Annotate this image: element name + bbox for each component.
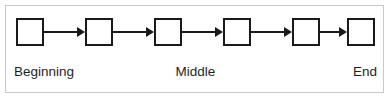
chain-node-4 [223, 18, 251, 46]
chain-node-3 [154, 18, 182, 46]
chain-row [0, 0, 391, 101]
arrow-head-icon [215, 27, 223, 37]
chain-arrow-3 [182, 30, 223, 34]
caption-end: End [353, 62, 377, 82]
arrow-head-icon [146, 27, 154, 37]
caption-middle: Middle [14, 62, 377, 82]
arrow-shaft [44, 31, 77, 33]
arrow-shaft [113, 31, 146, 33]
chain-node-1 [16, 18, 44, 46]
arrow-shaft [251, 31, 284, 33]
chain-diagram-figure: Beginning Middle End [0, 0, 391, 101]
arrow-head-icon [339, 27, 347, 37]
arrow-shaft [182, 31, 215, 33]
chain-arrow-2 [113, 30, 154, 34]
arrow-head-icon [77, 27, 85, 37]
chain-arrow-4 [251, 30, 292, 34]
chain-node-5 [292, 18, 320, 46]
chain-node-2 [85, 18, 113, 46]
chain-node-6 [347, 18, 375, 46]
arrow-head-icon [284, 27, 292, 37]
chain-arrow-5 [320, 30, 347, 34]
caption-row: Beginning Middle End [14, 62, 377, 84]
arrow-shaft [320, 31, 339, 33]
chain-arrow-1 [44, 30, 85, 34]
